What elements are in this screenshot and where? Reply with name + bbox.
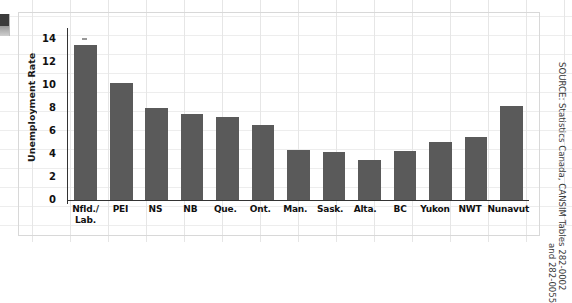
x-tick-label: Que. [208,204,243,226]
x-tick-label: Man. [278,204,313,226]
bar [74,45,97,200]
x-tick-label: BC [383,204,418,226]
y-tick-label: 8 [49,103,56,113]
bar-slot [352,28,387,200]
bar [216,117,239,200]
x-tick-label: Sask. [313,204,348,226]
y-tick-label: 4 [49,149,56,159]
x-tick-label-line1: NB [183,204,197,214]
x-tick-label-line1: Alta. [354,204,377,214]
bar-series [68,28,529,200]
bar [358,160,381,200]
bar [145,108,168,200]
bar-slot [68,28,103,200]
bar [500,106,523,200]
bar-slot [210,28,245,200]
source-note-line-2: and 282-0055 [547,243,557,303]
x-tick-label-line1: Man. [283,204,307,214]
bar-chart: Unemployment Rate 02468101214 Nfld./Lab.… [18,12,540,236]
x-tick-label: Nfld./Lab. [68,204,103,226]
bar-slot [103,28,138,200]
x-tick-label: PEI [103,204,138,226]
bar-slot [245,28,280,200]
clipped-toolbar-icon [0,14,10,36]
bar [465,137,488,200]
x-tick-label-line1: NS [149,204,163,214]
x-tick-label: Yukon [418,204,453,226]
source-note: SOURCE: Statistics Canada, CANSIM Tables… [546,0,570,269]
y-tick-label: 6 [49,126,56,136]
y-tick-label: 10 [42,80,56,90]
y-axis-title: Unemployment Rate [24,42,38,172]
bar [110,83,133,200]
bar-slot [458,28,493,200]
x-tick-label-line1: Nunavut [487,204,529,214]
x-tick-label-line2: Lab. [68,215,103,226]
bar [394,151,417,200]
y-tick-label: 14 [42,34,56,44]
bar-slot [494,28,529,200]
x-tick-label-line1: Que. [214,204,237,214]
bar-slot [281,28,316,200]
x-axis-tick-labels: Nfld./Lab.PEINSNBQue.Ont.Man.Sask.Alta.B… [68,204,529,226]
x-tick-label: NS [138,204,173,226]
bar [429,142,452,200]
bar [181,114,204,200]
bar-slot [174,28,209,200]
y-tick-label: 2 [49,172,56,182]
x-tick-label: Alta. [348,204,383,226]
bar [252,125,275,200]
x-tick-label-line1: Yukon [420,204,450,214]
x-tick-label: NWT [452,204,487,226]
bar-slot [316,28,351,200]
source-note-line-1: SOURCE: Statistics Canada, CANSIM Tables… [557,62,567,291]
y-tick-label: 12 [42,57,56,67]
x-tick-label-line1: BC [394,204,407,214]
bar-slot [139,28,174,200]
x-tick-label-line1: PEI [113,204,129,214]
bar-slot [423,28,458,200]
x-tick-label-line1: NWT [458,204,481,214]
x-axis-line [67,200,529,201]
bar-slot [387,28,422,200]
x-tick-label-line1: Nfld./ [72,204,98,214]
y-tick-label: 0 [49,195,56,205]
x-tick-label-line1: Sask. [317,204,343,214]
bar [287,150,310,200]
x-tick-label: Ont. [243,204,278,226]
bar [323,152,346,200]
x-tick-label: Nunavut [487,204,529,226]
x-tick-label: NB [173,204,208,226]
x-tick-label-line1: Ont. [250,204,271,214]
y-axis-tick-labels: 02468101214 [38,34,62,200]
